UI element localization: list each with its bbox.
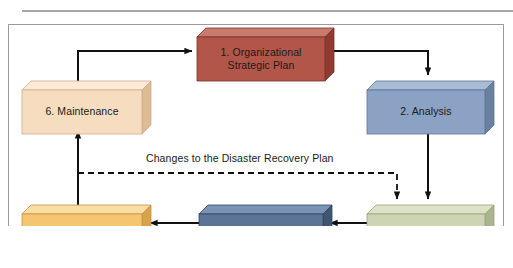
edge-changes-feedback	[78, 173, 397, 199]
edge-maintenance-to-plan	[78, 51, 192, 81]
frame-bottom-mask	[7, 226, 506, 268]
node-analysis[interactable]: 2. Analysis	[367, 81, 494, 134]
edge-label-changes: Changes to the Disaster Recovery Plan	[146, 152, 334, 164]
node-organizational-strategic-plan[interactable]: 1. Organizational Strategic Plan	[197, 28, 334, 81]
diagram-canvas: Changes to the Disaster Recovery Plan 1.…	[0, 0, 513, 268]
edge-plan-to-analysis	[334, 51, 428, 75]
node-maintenance[interactable]: 6. Maintenance	[22, 81, 151, 134]
